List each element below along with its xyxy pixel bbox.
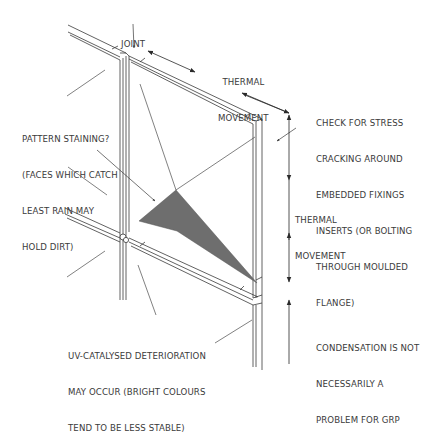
pattern-staining-shape [139,190,257,283]
lower-vertical-post [253,303,262,370]
stress-leader [277,128,296,141]
horizontal-arrow-upper [148,51,195,72]
label-thermal-movement-side: THERMAL MOVEMENT [295,190,346,274]
label-condensation: CONDENSATION IS NOT NECESSARILY A PROBLE… [316,318,419,436]
label-pattern-staining: PATTERN STAINING? (FACES WHICH CATCH LEA… [22,109,118,265]
label-thermal-movement-top: THERMAL MOVEMENT [218,52,269,136]
label-joint: JOINT [121,14,145,62]
label-uv-deterioration: UV-CATALYSED DETERIORATION MAY OCCUR (BR… [68,326,206,436]
upper-rail-left [68,25,126,60]
right-vertical-edge [253,119,262,298]
